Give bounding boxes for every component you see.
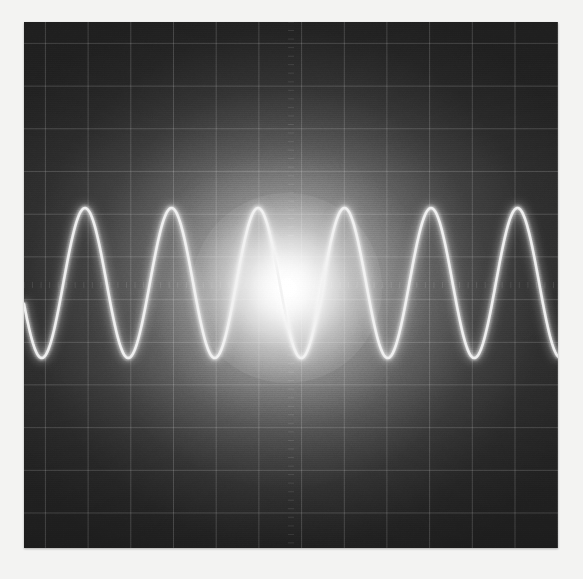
oscilloscope-display [0,0,583,579]
waveform-trace [24,22,558,548]
crt-screen[interactable] [24,22,558,548]
